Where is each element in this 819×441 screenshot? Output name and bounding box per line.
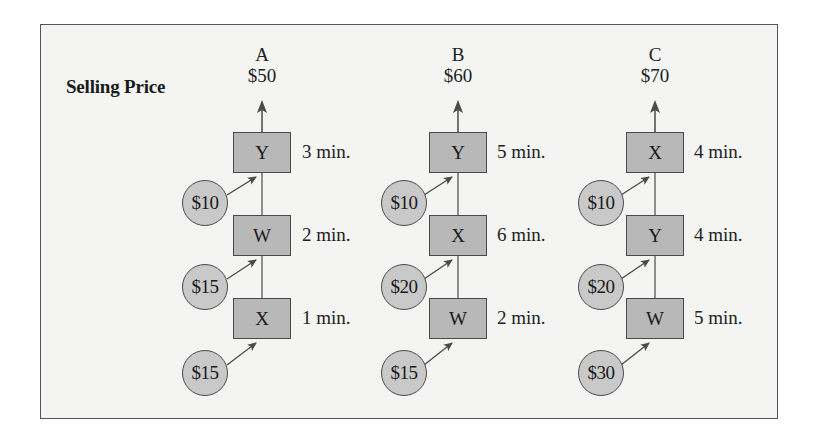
product-c-material-2: $20 [578,264,624,310]
product-b-time-1: 5 min. [497,141,546,163]
product-c-machine-3: W [626,298,684,339]
product-c-material-1: $10 [578,180,624,226]
product-a-material-3: $15 [182,350,228,396]
product-b-machine-3: W [429,298,487,339]
product-b-name: B [428,45,488,65]
product-a-name: A [232,45,292,65]
product-c-time-2: 4 min. [694,224,743,246]
product-c-name: C [625,45,685,65]
product-c-machine-2: Y [626,215,684,256]
product-b-material-3: $15 [381,350,427,396]
product-a-time-2: 2 min. [302,224,351,246]
product-a-time-3: 1 min. [302,307,351,329]
product-a-price: $50 [232,66,292,86]
product-b-material-1: $10 [381,180,427,226]
product-c-material-3: $30 [578,350,624,396]
product-a-time-1: 3 min. [302,141,351,163]
product-a-machine-1: Y [233,132,291,173]
product-b-price: $60 [428,66,488,86]
product-a-machine-3: X [233,298,291,339]
product-b-machine-1: Y [429,132,487,173]
product-a-material-2: $15 [182,264,228,310]
product-c-machine-1: X [626,132,684,173]
product-b-material-2: $20 [381,264,427,310]
product-c-price: $70 [625,66,685,86]
product-b-time-3: 2 min. [497,307,546,329]
product-b-time-2: 6 min. [497,224,546,246]
product-c-time-3: 5 min. [694,307,743,329]
product-c-time-1: 4 min. [694,141,743,163]
product-b-machine-2: X [429,215,487,256]
product-a-machine-2: W [233,215,291,256]
product-a-material-1: $10 [182,180,228,226]
